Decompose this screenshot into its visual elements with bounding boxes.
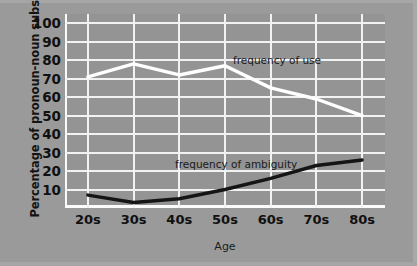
y-tick-label: 80 — [42, 54, 61, 68]
y-tick-label: 70 — [42, 73, 61, 87]
x-axis-tick-labels: 20s30s40s50s60s70s80s — [65, 212, 385, 232]
x-axis-title: Age — [65, 240, 385, 253]
figure-edge-bottom — [0, 262, 417, 266]
y-tick-label: 90 — [42, 36, 61, 50]
x-tick-label: 60s — [258, 212, 284, 227]
series-lines — [65, 14, 385, 208]
x-tick-label: 20s — [75, 212, 101, 227]
y-tick-label: 20 — [42, 165, 61, 179]
plot-area: frequency of usefrequency of ambiguity — [65, 14, 385, 208]
x-tick-label: 40s — [166, 212, 192, 227]
y-tick-label: 50 — [42, 110, 61, 124]
y-tick-label: 40 — [42, 128, 61, 142]
y-tick-label: 100 — [33, 17, 61, 31]
x-tick-label: 50s — [212, 212, 238, 227]
x-tick-label: 80s — [349, 212, 375, 227]
chart-figure: Percentage of pronoun-noun substitutions… — [0, 0, 417, 266]
series-annotation: frequency of use — [233, 54, 321, 66]
y-tick-label: 10 — [42, 184, 61, 198]
x-tick-label: 70s — [304, 212, 330, 227]
y-tick-label: 30 — [42, 147, 61, 161]
figure-edge-top — [0, 0, 417, 3]
x-tick-label: 30s — [121, 212, 147, 227]
series-annotation: frequency of ambiguity — [175, 158, 297, 170]
figure-edge-right — [413, 0, 417, 266]
series-line — [88, 64, 362, 116]
y-axis-tick-labels: 102030405060708090100 — [24, 15, 61, 208]
y-tick-label: 60 — [42, 91, 61, 105]
